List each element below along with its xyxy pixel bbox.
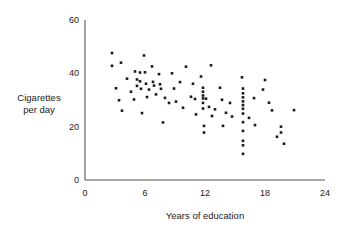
data-point (242, 112, 245, 115)
x-axis-title: Years of education (85, 210, 325, 222)
data-point (248, 117, 251, 120)
data-point (271, 109, 274, 112)
y-axis-title: Cigarettes per day (2, 92, 76, 116)
data-point (222, 125, 225, 128)
data-point (242, 92, 245, 95)
data-point (182, 106, 185, 109)
data-point (151, 65, 154, 68)
scatter-plot-figure: 0204060 06121824 Cigarettes per day Year… (0, 0, 346, 235)
data-point (153, 84, 156, 87)
data-point (130, 90, 133, 93)
data-point (136, 85, 139, 88)
data-point (242, 87, 245, 90)
data-point (280, 131, 283, 134)
data-point (173, 87, 176, 90)
data-point (139, 71, 142, 74)
data-point (140, 88, 143, 91)
plot-canvas (0, 0, 346, 235)
data-point (242, 144, 245, 147)
data-point (202, 86, 205, 89)
y-tick-label: 40 (55, 68, 79, 78)
data-point (221, 98, 224, 101)
data-point (152, 81, 155, 84)
data-point (262, 88, 265, 91)
data-point (126, 77, 129, 80)
data-point (202, 94, 205, 97)
data-point (179, 81, 182, 84)
data-point (254, 124, 257, 127)
data-point (148, 88, 151, 91)
y-axis-title-line-2: per day (2, 104, 76, 116)
data-point (242, 100, 245, 103)
x-tick-label: 24 (313, 188, 337, 198)
data-point (158, 73, 161, 76)
data-point (264, 79, 267, 82)
data-point (121, 109, 124, 112)
data-point (194, 98, 197, 101)
data-point (145, 82, 148, 85)
data-point (268, 101, 271, 104)
data-point (225, 112, 228, 115)
data-point (210, 64, 213, 67)
data-point (203, 125, 206, 128)
axes (85, 20, 325, 180)
data-point (241, 76, 244, 79)
x-tick-label: 18 (253, 188, 277, 198)
x-tick-label: 0 (73, 188, 97, 198)
data-point (253, 97, 256, 100)
data-point (171, 72, 174, 75)
data-point (242, 121, 245, 124)
data-point (242, 130, 245, 133)
data-point (242, 96, 245, 99)
data-point (280, 125, 283, 128)
data-point (208, 106, 211, 109)
data-point (192, 82, 195, 85)
x-tick-label: 12 (193, 188, 217, 198)
data-point (242, 153, 245, 156)
data-point (146, 96, 149, 99)
y-tick-label: 60 (55, 15, 79, 25)
data-point (276, 136, 279, 139)
data-point (195, 113, 198, 116)
data-point (159, 83, 162, 86)
data-point (136, 78, 139, 81)
data-point (144, 71, 147, 74)
data-point (133, 98, 136, 101)
data-point (141, 112, 144, 115)
data-point (202, 102, 205, 105)
data-point (185, 65, 188, 68)
data-point (293, 109, 296, 112)
data-point (120, 61, 123, 64)
data-point (219, 86, 222, 89)
x-tick-label: 6 (133, 188, 157, 198)
y-axis-title-line-1: Cigarettes (2, 92, 76, 104)
data-point (231, 115, 234, 118)
data-point (214, 108, 217, 111)
data-point (200, 75, 203, 78)
data-point (242, 140, 245, 143)
data-points (111, 52, 296, 155)
data-point (202, 107, 205, 110)
data-point (168, 102, 171, 105)
data-point (242, 104, 245, 107)
data-point (202, 97, 205, 100)
data-point (134, 70, 137, 73)
data-point (160, 88, 163, 91)
data-point (229, 102, 232, 105)
data-point (162, 121, 165, 124)
data-point (242, 108, 245, 111)
data-point (211, 115, 214, 118)
data-point (115, 87, 118, 90)
data-point (118, 99, 121, 102)
data-point (155, 93, 158, 96)
data-point (111, 65, 114, 68)
data-point (203, 131, 206, 134)
y-tick-label: 0 (55, 175, 79, 185)
data-point (202, 90, 205, 93)
data-point (139, 80, 142, 83)
data-point (190, 96, 193, 99)
data-point (111, 52, 114, 55)
data-point (164, 97, 167, 100)
data-point (205, 97, 208, 100)
data-point (283, 142, 286, 145)
